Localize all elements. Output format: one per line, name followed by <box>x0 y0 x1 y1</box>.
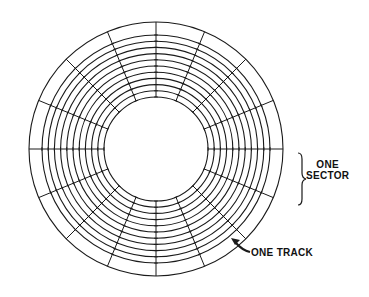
sector-tick <box>232 116 233 119</box>
sector-tick <box>203 167 204 170</box>
sector-tick <box>113 49 116 50</box>
sector-brace-icon <box>298 153 306 205</box>
sector-tick <box>79 179 80 182</box>
sector-tick <box>96 172 97 175</box>
sector-tick <box>118 60 121 61</box>
sector-tick <box>115 242 118 243</box>
sector-tick <box>226 118 227 121</box>
sector-tick <box>118 236 121 237</box>
sector-tick <box>188 66 191 67</box>
sector-tick <box>191 236 194 237</box>
sector-tick <box>255 106 256 109</box>
sector-tick <box>123 72 126 73</box>
sector-tick <box>215 172 216 175</box>
sector-tick <box>184 77 187 78</box>
sector-tick <box>125 77 128 78</box>
sector-tick <box>113 248 116 249</box>
sector-tick <box>134 100 137 101</box>
sector-tick <box>115 54 118 55</box>
sector-tick <box>111 254 114 255</box>
sector-tick <box>50 104 51 107</box>
sector-tick <box>111 43 114 44</box>
sector-tick <box>120 66 123 67</box>
sector-tick <box>188 231 191 232</box>
sector-tick <box>174 100 177 101</box>
sector-tick <box>174 196 177 197</box>
sector-tick <box>261 104 262 107</box>
sector-tick <box>61 186 62 189</box>
sector-tick <box>134 196 137 197</box>
disk-diagram <box>0 0 369 297</box>
sector-tick <box>177 95 180 96</box>
sector-tick <box>102 125 103 128</box>
sector-tick <box>198 254 201 255</box>
sector-tick <box>186 72 189 73</box>
sector-tick <box>243 184 244 187</box>
sector-tick <box>130 208 133 209</box>
sector-tick <box>125 219 128 220</box>
sector-tick <box>238 181 239 184</box>
one-track-label: ONE TRACK <box>251 247 313 258</box>
sector-tick <box>102 170 103 173</box>
sector-tick <box>198 43 201 44</box>
sector-tick <box>177 202 180 203</box>
sector-tick <box>96 123 97 126</box>
sector-tick <box>226 177 227 180</box>
sector-tick <box>127 83 130 84</box>
sector-tick <box>61 108 62 111</box>
sector-tick <box>221 120 222 123</box>
sector-tick <box>179 208 182 209</box>
sector-tick <box>238 113 239 116</box>
sector-tick <box>221 174 222 177</box>
sector-tick <box>127 214 130 215</box>
sector-tick <box>209 170 210 173</box>
sector-tick <box>181 214 184 215</box>
sector-tick <box>107 167 108 170</box>
sector-tick <box>132 202 135 203</box>
sector-tick <box>232 179 233 182</box>
sector-tick <box>243 111 244 114</box>
sector-tick <box>249 108 250 111</box>
sector-tick <box>193 54 196 55</box>
sector-tick <box>90 120 91 123</box>
sector-tick <box>73 181 74 184</box>
sector-tick <box>84 177 85 180</box>
sector-tick <box>123 225 126 226</box>
sector-tick <box>249 186 250 189</box>
sector-tick <box>90 174 91 177</box>
sector-tick <box>132 95 135 96</box>
sector-tick <box>56 189 57 192</box>
track-arrow-icon <box>236 243 250 252</box>
track-arrowhead-icon <box>231 238 240 245</box>
sector-tick <box>184 219 187 220</box>
sector-tick <box>209 125 210 128</box>
sector-tick <box>67 184 68 187</box>
sector-tick <box>215 123 216 126</box>
sector-tick <box>193 242 196 243</box>
sector-tick <box>181 83 184 84</box>
sector-tick <box>67 111 68 114</box>
one-sector-label: ONE SECTOR <box>306 159 349 181</box>
sector-tick <box>73 113 74 116</box>
sector-tick <box>120 231 123 232</box>
sector-tick <box>196 248 199 249</box>
sector-tick <box>196 49 199 50</box>
sector-tick <box>186 225 189 226</box>
sector-tick <box>50 191 51 194</box>
sector-tick <box>79 116 80 119</box>
sector-label-line2: SECTOR <box>306 170 349 181</box>
track-ring <box>104 97 208 201</box>
sector-tick <box>130 89 133 90</box>
sector-tick <box>191 60 194 61</box>
sector-tick <box>107 127 108 130</box>
sector-tick <box>255 189 256 192</box>
sector-tick <box>84 118 85 121</box>
sector-tick <box>56 106 57 109</box>
sector-tick <box>203 127 204 130</box>
sector-label-line1: ONE <box>306 159 349 170</box>
sector-tick <box>179 89 182 90</box>
sector-tick <box>261 191 262 194</box>
